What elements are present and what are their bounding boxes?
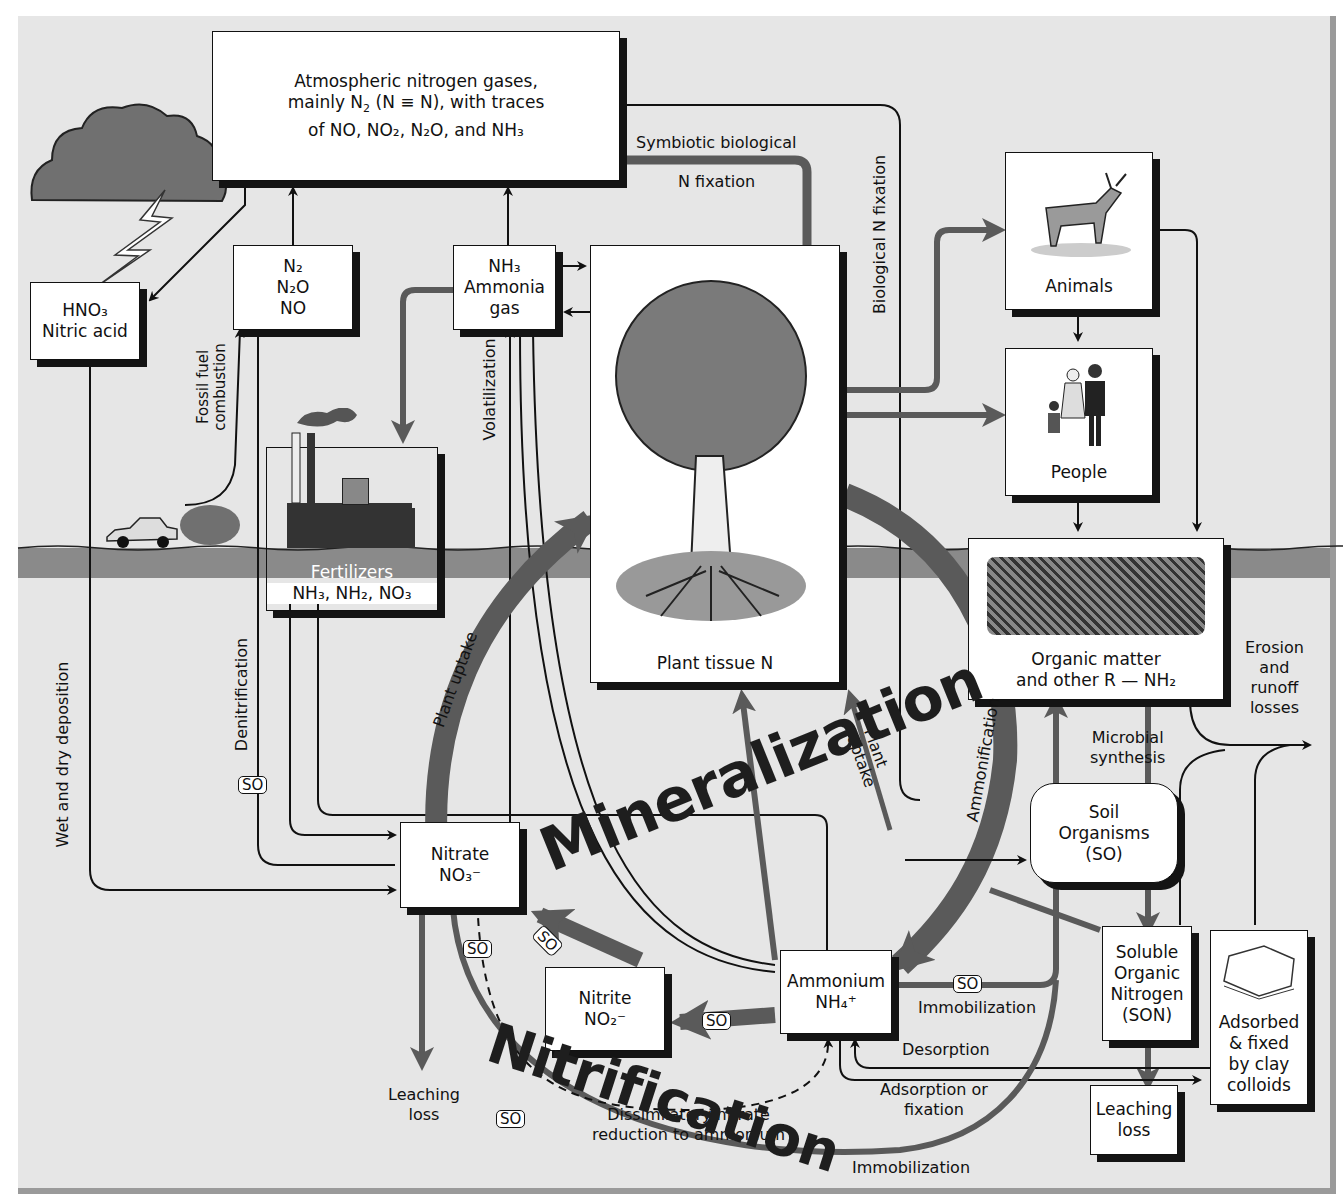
plant-tissue-box: Plant tissue N <box>590 245 840 683</box>
nitrate-box: Nitrate NO₃⁻ <box>400 822 520 908</box>
desorption-label: Desorption <box>902 1040 990 1060</box>
deer-icon <box>1026 168 1136 258</box>
volatilization-label: Volatilization <box>480 338 499 440</box>
denitrification-label: Denitrification <box>232 638 251 751</box>
fertilizers-box: Fertilizers NH₃, NH₂, NO₃ <box>266 447 438 611</box>
biological-fixation-label: Biological N fixation <box>870 155 889 314</box>
animals-box: Animals <box>1005 152 1153 310</box>
clay-particle-icon <box>1219 941 1299 1001</box>
adsorption-label: Adsorption orfixation <box>880 1080 988 1120</box>
lightning-icon <box>92 190 172 290</box>
storm-cloud-icon <box>31 104 226 201</box>
leaching-loss-left-label: Leachingloss <box>388 1085 460 1125</box>
immobilization-label: Immobilization <box>918 998 1036 1018</box>
people-box: People <box>1005 348 1153 496</box>
organic-matter-box: Organic matter and other R — NH₂ <box>968 538 1224 700</box>
atmospheric-nitrogen-box: Atmospheric nitrogen gases, mainly N2 (N… <box>212 31 620 181</box>
humus-icon <box>987 557 1205 635</box>
leaching-loss-right-box: Leaching loss <box>1090 1085 1178 1155</box>
symbiotic-fixation-label: Symbiotic biological <box>636 133 796 153</box>
soil-organisms-box: Soil Organisms (SO) <box>1030 783 1178 883</box>
so-badge-ammonium-nitrite: SO <box>702 1012 731 1030</box>
microbial-synthesis-label: Microbialsynthesis <box>1090 728 1165 768</box>
immobilization-bottom-label: Immobilization <box>852 1158 970 1178</box>
so-badge-denitrification: SO <box>238 776 267 794</box>
fossil-fuel-label: Fossil fuelcombustion <box>195 343 229 431</box>
so-badge-dnra-nitrate: SO <box>463 940 492 958</box>
symbiotic-fixation-label-2: N fixation <box>678 172 755 192</box>
people-icon <box>1040 361 1120 451</box>
so-badge-bottom: SO <box>496 1110 525 1128</box>
soluble-organic-nitrogen-box: Soluble Organic Nitrogen (SON) <box>1102 926 1192 1041</box>
nitrogen-gases-box: N₂ N₂O NO <box>233 245 353 330</box>
ammonia-gas-box: NH₃ Ammonia gas <box>453 245 556 330</box>
nitric-acid-box: HNO₃ Nitric acid <box>30 282 140 360</box>
ammonium-box: Ammonium NH₄⁺ <box>780 950 892 1034</box>
so-badge-immobilization: SO <box>953 975 982 993</box>
car-icon <box>105 515 185 550</box>
wet-dry-deposition-label: Wet and dry deposition <box>53 662 72 848</box>
exhaust-smoke-icon <box>180 505 240 545</box>
clay-colloids-box: Adsorbed & fixed by clay colloids <box>1210 930 1308 1105</box>
erosion-runoff-label: Erosionand runofflosses <box>1245 638 1304 718</box>
tree-icon <box>601 266 831 646</box>
